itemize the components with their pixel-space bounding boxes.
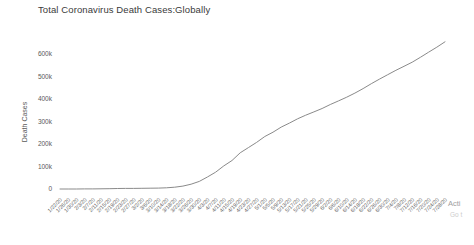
- y-tick-label: 300k: [38, 118, 53, 125]
- watermark-line2: Go t: [450, 211, 462, 218]
- chart-canvas: 0100k200k300k400k500k600kDeath Cases1/22…: [0, 0, 474, 245]
- y-tick-label: 600k: [38, 50, 53, 57]
- y-tick-label: 500k: [38, 73, 53, 80]
- y-tick-label: 200k: [38, 140, 53, 147]
- y-tick-label: 0: [48, 185, 52, 192]
- deaths-line-series: [60, 42, 445, 189]
- watermark-line1: Acti: [448, 199, 461, 208]
- y-tick-label: 400k: [38, 95, 53, 102]
- y-tick-label: 100k: [38, 163, 53, 170]
- chart-page: { "title": "Total Coronavirus Death Case…: [0, 0, 474, 245]
- y-axis-title: Death Cases: [21, 101, 28, 142]
